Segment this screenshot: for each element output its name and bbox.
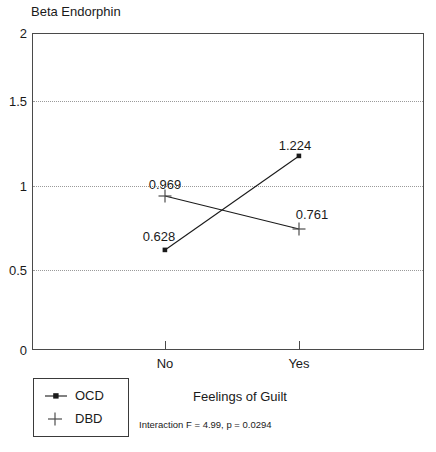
gridline-1-5: [33, 101, 423, 102]
point-label-dbd-no: 0.969: [139, 178, 191, 192]
legend-label-ocd: OCD: [75, 389, 104, 403]
point-label-dbd-yes: 0.761: [286, 208, 338, 222]
gridline-1-0: [33, 186, 423, 187]
legend-marker-dbd-icon: [44, 412, 68, 426]
legend-item-ocd[interactable]: OCD: [44, 386, 104, 406]
y-tick-label-1: 1: [20, 180, 27, 193]
legend-marker-ocd-icon: [44, 389, 68, 403]
interaction-statistics-annotation: Interaction F = 4.99, p = 0.0294: [139, 419, 272, 430]
legend-item-dbd[interactable]: DBD: [44, 409, 102, 429]
y-tick-label-1-5: 1.5: [9, 95, 27, 108]
point-label-ocd-no: 0.628: [133, 230, 185, 244]
y-tick-label-0-5: 0.5: [9, 264, 27, 277]
x-tick-mark-no: [165, 341, 166, 350]
x-tick-label-no: No: [135, 356, 195, 371]
y-axis-title: Beta Endorphin: [31, 4, 121, 19]
y-tick-label-0: 0: [20, 344, 27, 357]
x-tick-label-yes: Yes: [269, 356, 329, 371]
gridline-0-5: [33, 270, 423, 271]
point-label-ocd-yes: 1.224: [269, 139, 321, 153]
x-axis-title: Feelings of Guilt: [170, 389, 310, 404]
x-tick-mark-yes: [299, 341, 300, 350]
beta-endorphin-interaction-chart: Beta Endorphin 2 1.5 1 0.5 0 No Yes Feel…: [0, 0, 436, 452]
y-tick-label-2: 2: [20, 27, 27, 40]
legend-label-dbd: DBD: [75, 412, 102, 426]
legend: OCD DBD: [33, 378, 129, 437]
plot-area: [32, 33, 424, 350]
